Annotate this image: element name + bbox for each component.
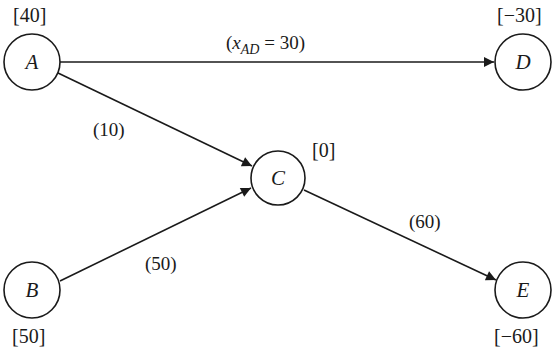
node-B: B [50] bbox=[4, 262, 60, 347]
edge-A-C bbox=[58, 73, 252, 166]
edge-label-C-E: (60) bbox=[409, 211, 441, 233]
node-B-label: B bbox=[26, 278, 39, 302]
node-E-supply: [−60] bbox=[494, 325, 539, 347]
node-D-label: D bbox=[514, 50, 530, 74]
node-C-supply: [0] bbox=[312, 139, 335, 161]
node-A-supply: [40] bbox=[13, 4, 46, 26]
node-A-label: A bbox=[24, 50, 39, 74]
edge-C-E bbox=[304, 190, 496, 280]
edge-label-A-C: (10) bbox=[93, 119, 125, 141]
network-diagram: (xAD = 30) (10) (50) (60) A [40] B [50] … bbox=[0, 0, 558, 360]
node-C: C [0] bbox=[251, 139, 335, 205]
node-E: E [−60] bbox=[494, 262, 551, 347]
node-B-supply: [50] bbox=[12, 325, 45, 347]
node-D: D [−30] bbox=[495, 4, 551, 90]
node-D-supply: [−30] bbox=[497, 4, 542, 26]
node-A: A [40] bbox=[4, 4, 60, 90]
edge-label-A-D: (xAD = 30) bbox=[226, 32, 305, 57]
node-E-label: E bbox=[516, 278, 530, 302]
node-C-label: C bbox=[271, 166, 286, 190]
edge-label-B-C: (50) bbox=[145, 253, 177, 275]
